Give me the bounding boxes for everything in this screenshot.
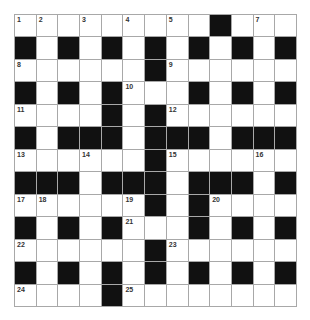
crossword-cell[interactable] <box>232 15 253 36</box>
crossword-cell[interactable] <box>210 217 231 238</box>
crossword-cell[interactable] <box>254 240 275 261</box>
crossword-cell[interactable]: 10 <box>123 82 144 103</box>
crossword-cell[interactable] <box>80 60 101 81</box>
crossword-cell[interactable] <box>167 172 188 193</box>
crossword-cell[interactable] <box>232 240 253 261</box>
crossword-cell[interactable] <box>123 127 144 148</box>
crossword-cell[interactable] <box>37 127 58 148</box>
crossword-cell[interactable] <box>123 262 144 283</box>
crossword-cell[interactable] <box>123 150 144 171</box>
crossword-cell[interactable] <box>80 217 101 238</box>
crossword-cell[interactable]: 21 <box>123 217 144 238</box>
crossword-cell[interactable] <box>232 150 253 171</box>
crossword-cell[interactable] <box>102 195 123 216</box>
crossword-cell[interactable] <box>275 150 296 171</box>
crossword-cell[interactable] <box>123 105 144 126</box>
crossword-cell[interactable] <box>58 240 79 261</box>
crossword-cell[interactable] <box>37 37 58 58</box>
crossword-cell[interactable]: 17 <box>15 195 36 216</box>
crossword-cell[interactable] <box>254 285 275 306</box>
crossword-cell[interactable] <box>80 37 101 58</box>
crossword-cell[interactable] <box>145 82 166 103</box>
crossword-cell[interactable] <box>210 150 231 171</box>
crossword-cell[interactable]: 2 <box>37 15 58 36</box>
crossword-cell[interactable] <box>145 217 166 238</box>
crossword-cell[interactable]: 5 <box>167 15 188 36</box>
crossword-cell[interactable] <box>80 262 101 283</box>
crossword-cell[interactable] <box>123 37 144 58</box>
crossword-cell[interactable] <box>254 217 275 238</box>
crossword-cell[interactable] <box>123 240 144 261</box>
crossword-cell[interactable] <box>167 82 188 103</box>
crossword-cell[interactable] <box>37 262 58 283</box>
crossword-cell[interactable] <box>189 15 210 36</box>
crossword-cell[interactable] <box>80 285 101 306</box>
crossword-cell[interactable] <box>254 82 275 103</box>
crossword-cell[interactable] <box>37 285 58 306</box>
crossword-cell[interactable] <box>254 60 275 81</box>
crossword-cell[interactable] <box>275 60 296 81</box>
crossword-cell[interactable] <box>167 37 188 58</box>
crossword-cell[interactable] <box>145 15 166 36</box>
crossword-cell[interactable] <box>189 240 210 261</box>
crossword-cell[interactable] <box>37 60 58 81</box>
crossword-cell[interactable] <box>102 150 123 171</box>
crossword-cell[interactable] <box>210 60 231 81</box>
crossword-cell[interactable]: 3 <box>80 15 101 36</box>
crossword-cell[interactable] <box>37 240 58 261</box>
crossword-cell[interactable] <box>275 195 296 216</box>
crossword-cell[interactable] <box>210 262 231 283</box>
crossword-cell[interactable] <box>210 105 231 126</box>
crossword-cell[interactable] <box>232 285 253 306</box>
crossword-cell[interactable]: 18 <box>37 195 58 216</box>
crossword-cell[interactable] <box>210 285 231 306</box>
crossword-cell[interactable] <box>232 195 253 216</box>
crossword-cell[interactable]: 23 <box>167 240 188 261</box>
crossword-cell[interactable]: 22 <box>15 240 36 261</box>
crossword-cell[interactable] <box>254 172 275 193</box>
crossword-cell[interactable]: 9 <box>167 60 188 81</box>
crossword-cell[interactable] <box>37 82 58 103</box>
crossword-cell[interactable] <box>102 60 123 81</box>
crossword-cell[interactable] <box>80 240 101 261</box>
crossword-cell[interactable] <box>210 127 231 148</box>
crossword-cell[interactable] <box>145 285 166 306</box>
crossword-cell[interactable] <box>189 105 210 126</box>
crossword-cell[interactable]: 20 <box>210 195 231 216</box>
crossword-cell[interactable] <box>167 217 188 238</box>
crossword-cell[interactable] <box>58 195 79 216</box>
crossword-cell[interactable] <box>210 240 231 261</box>
crossword-cell[interactable] <box>37 217 58 238</box>
crossword-cell[interactable] <box>58 60 79 81</box>
crossword-cell[interactable] <box>80 82 101 103</box>
crossword-cell[interactable] <box>37 150 58 171</box>
crossword-cell[interactable] <box>189 285 210 306</box>
crossword-cell[interactable] <box>254 37 275 58</box>
crossword-cell[interactable] <box>58 150 79 171</box>
crossword-cell[interactable] <box>58 285 79 306</box>
crossword-cell[interactable] <box>275 15 296 36</box>
crossword-cell[interactable] <box>189 150 210 171</box>
crossword-cell[interactable]: 25 <box>123 285 144 306</box>
crossword-cell[interactable]: 11 <box>15 105 36 126</box>
crossword-cell[interactable] <box>58 15 79 36</box>
crossword-cell[interactable]: 13 <box>15 150 36 171</box>
crossword-cell[interactable]: 1 <box>15 15 36 36</box>
crossword-cell[interactable] <box>254 262 275 283</box>
crossword-cell[interactable] <box>189 60 210 81</box>
crossword-cell[interactable]: 16 <box>254 150 275 171</box>
crossword-cell[interactable] <box>254 195 275 216</box>
crossword-cell[interactable] <box>37 105 58 126</box>
crossword-cell[interactable]: 19 <box>123 195 144 216</box>
crossword-cell[interactable]: 4 <box>123 15 144 36</box>
crossword-cell[interactable] <box>80 105 101 126</box>
crossword-cell[interactable] <box>102 15 123 36</box>
crossword-cell[interactable] <box>275 240 296 261</box>
crossword-cell[interactable]: 8 <box>15 60 36 81</box>
crossword-cell[interactable]: 15 <box>167 150 188 171</box>
crossword-cell[interactable] <box>167 195 188 216</box>
crossword-cell[interactable] <box>232 105 253 126</box>
crossword-cell[interactable] <box>167 285 188 306</box>
crossword-cell[interactable] <box>123 60 144 81</box>
crossword-cell[interactable] <box>80 195 101 216</box>
